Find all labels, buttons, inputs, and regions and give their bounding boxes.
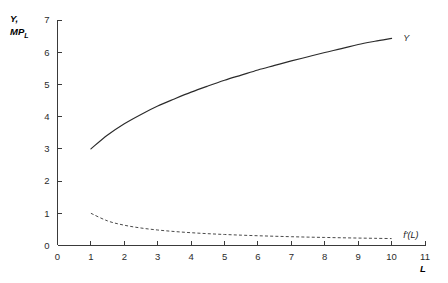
- x-tick-label: 10: [386, 251, 397, 262]
- y-tick-label: 0: [44, 240, 49, 251]
- curve-label-f-prime-L: f'(L): [403, 230, 418, 240]
- y-tick-label: 7: [44, 14, 49, 25]
- y-tick-label: 4: [44, 111, 49, 122]
- x-tick-label: 0: [55, 251, 60, 262]
- x-tick-label: 8: [322, 251, 327, 262]
- x-tick-label: 3: [155, 251, 160, 262]
- x-tick-label: 9: [356, 251, 361, 262]
- x-tick-label: 6: [255, 251, 260, 262]
- curve-label-Y: Y: [403, 33, 410, 43]
- y-tick-label: 1: [44, 208, 49, 219]
- y-axis-title-line1: Y,: [10, 13, 18, 24]
- x-axis-title: L: [420, 263, 426, 274]
- chart-figure: 01234567 01234567891011 Y f'(L) Y, MPL L: [0, 0, 448, 283]
- y-tick-label: 5: [44, 79, 49, 90]
- x-tick-label: 5: [222, 251, 227, 262]
- y-axis-title-subscript: L: [24, 32, 28, 39]
- y-axis-tick-labels: 01234567: [44, 14, 49, 251]
- y-tick-label: 6: [44, 47, 49, 58]
- curve-marginal-product: [91, 213, 392, 238]
- curve-output-Y: [91, 38, 392, 149]
- y-axis-ticks: [58, 20, 62, 213]
- production-function-chart: 01234567 01234567891011 Y f'(L) Y, MPL L: [0, 0, 448, 283]
- x-tick-label: 11: [420, 251, 430, 262]
- y-axis-title-line2: MPL: [10, 26, 29, 39]
- x-tick-label: 7: [289, 251, 294, 262]
- y-tick-label: 3: [44, 143, 49, 154]
- x-tick-label: 1: [88, 251, 93, 262]
- y-tick-label: 2: [44, 175, 49, 186]
- y-axis-title-main: MP: [10, 26, 25, 37]
- x-axis-ticks: [91, 241, 425, 246]
- x-tick-label: 2: [122, 251, 127, 262]
- axes: [58, 20, 426, 246]
- x-tick-label: 4: [188, 251, 193, 262]
- x-axis-tick-labels: 01234567891011: [55, 251, 430, 262]
